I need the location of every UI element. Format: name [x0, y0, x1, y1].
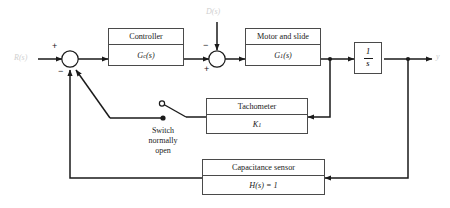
integrator-fraction: 1 s	[364, 48, 373, 69]
summing-junction-disturbance	[209, 51, 225, 67]
switch-caption-line2: normally	[126, 136, 200, 146]
wire-velocity-tap-to-tachometer	[308, 59, 330, 117]
capacitance-sensor-title: Capacitance sensor	[203, 160, 324, 176]
block-tachometer[interactable]: Tachometer K1	[206, 98, 308, 134]
switch-symbol	[159, 101, 186, 117]
switch-caption-line3: open	[126, 146, 200, 156]
summing-junction-input	[62, 51, 78, 67]
motor-and-slide-transfer: G1(s)	[246, 45, 320, 65]
switch-open-terminal	[159, 101, 164, 106]
block-controller[interactable]: Controller Gc(s)	[108, 28, 184, 66]
switch-caption-line1: Switch	[126, 126, 200, 136]
switch-blade	[163, 104, 186, 117]
input-signal-label: R(s)	[14, 53, 27, 62]
wire-inner-feedback-to-sum	[76, 70, 110, 118]
sum-forward-plus-sign: +	[204, 64, 209, 74]
sum-disturbance-minus-sign: −	[203, 40, 208, 50]
integrator-numerator: 1	[364, 48, 372, 57]
integrator-denominator: s	[364, 60, 371, 69]
block-integrator[interactable]: 1 s	[354, 42, 382, 74]
tachometer-title: Tachometer	[207, 99, 307, 115]
motor-and-slide-title: Motor and slide	[246, 29, 320, 45]
switch-caption: Switch normally open	[126, 126, 200, 155]
disturbance-signal-label: D(s)	[206, 7, 220, 16]
controller-transfer: Gc(s)	[109, 45, 183, 65]
wire-position-tap-to-sensor	[325, 59, 408, 178]
block-motor-and-slide[interactable]: Motor and slide G1(s)	[245, 28, 321, 66]
capacitance-sensor-transfer: H(s) = 1	[203, 176, 324, 194]
block-diagram-canvas: Controller Gc(s) Motor and slide G1(s) 1…	[0, 0, 450, 208]
block-capacitance-sensor[interactable]: Capacitance sensor H(s) = 1	[202, 159, 325, 195]
output-signal-label: y	[436, 52, 440, 61]
sum-input-plus-sign: +	[52, 41, 57, 51]
tachometer-transfer: K1	[207, 115, 307, 133]
wire-sensor-to-sum	[70, 70, 202, 178]
switch-pivot-node	[160, 115, 165, 120]
sum-outer-feedback-minus-sign: −	[58, 66, 63, 76]
controller-title: Controller	[109, 29, 183, 45]
